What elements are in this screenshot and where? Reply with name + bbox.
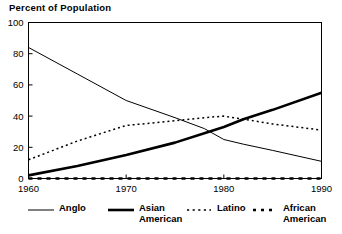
series-lines — [29, 47, 322, 178]
legend-item-african-american[interactable]: African American — [252, 203, 326, 224]
plot-area: 020406080100 1960197019801990 — [0, 0, 342, 234]
legend-label-african-american: African American — [283, 203, 326, 224]
legend-swatch-asian-american — [108, 204, 134, 216]
x-tick-label: 1990 — [311, 183, 332, 194]
legend-label-anglo: Anglo — [59, 203, 86, 214]
y-tick-label: 100 — [8, 17, 24, 28]
legend-item-asian-american[interactable]: Asian American — [108, 203, 182, 224]
legend-item-latino[interactable]: Latino — [186, 203, 246, 216]
axis-tick-marks — [29, 54, 224, 179]
x-tick-label: 1960 — [18, 183, 39, 194]
x-tick-label: 1980 — [213, 183, 234, 194]
series-line — [29, 93, 322, 176]
y-tick-label: 60 — [13, 79, 24, 90]
legend-label-asian-american: Asian American — [139, 203, 182, 224]
x-tick-label: 1970 — [116, 183, 137, 194]
chart-container: Percent of Population 020406080100 19601… — [0, 0, 342, 234]
y-tick-label: 80 — [13, 48, 24, 59]
chart-legend: Anglo Asian American Latino African Amer… — [0, 203, 342, 234]
y-tick-label: 20 — [13, 142, 24, 153]
legend-swatch-anglo — [28, 204, 54, 216]
legend-swatch-latino — [186, 204, 212, 216]
series-line — [29, 47, 322, 161]
y-tick-label: 40 — [13, 111, 24, 122]
x-axis-tick-labels: 1960197019801990 — [18, 183, 332, 194]
plot-frame — [29, 23, 322, 179]
legend-swatch-african-american — [252, 204, 278, 216]
legend-label-latino: Latino — [217, 203, 246, 214]
y-axis-tick-labels: 020406080100 — [8, 17, 24, 184]
legend-item-anglo[interactable]: Anglo — [28, 203, 86, 216]
series-line — [29, 116, 322, 160]
